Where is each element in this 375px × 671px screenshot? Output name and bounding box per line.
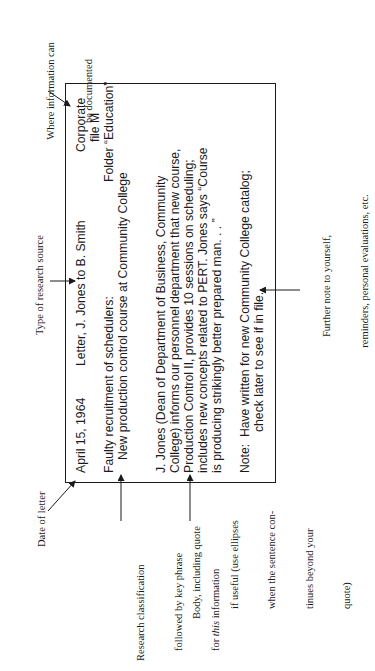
card-body-line: Production Control II, provides 10 sessi… bbox=[182, 159, 196, 473]
card-body-line: College) informs our personnel departmen… bbox=[168, 149, 182, 474]
label-type-of-source: Type of research source bbox=[34, 235, 47, 335]
card-classification: Faulty recruitment of schedulers: bbox=[102, 296, 116, 473]
card-source-type: Letter, J. Jones to B. Smith bbox=[74, 220, 88, 366]
label-where-documented: Where information can be documented bbox=[20, 31, 120, 151]
card-note-line2: check later to see if in file. bbox=[252, 292, 266, 432]
card-key-phrase: New production control course at Communi… bbox=[116, 172, 130, 460]
label-further-note: Further note to yourself, reminders, per… bbox=[296, 181, 375, 391]
card-date: April 15, 1964 bbox=[74, 398, 88, 473]
label-date-of-letter: Date of letter bbox=[36, 492, 49, 547]
card-body-line: includes new concepts related to PERT. J… bbox=[196, 147, 210, 473]
label-body: Body, including quote if useful (use ell… bbox=[166, 511, 375, 619]
card-body-line: J. Jones (Dean of Department of Business… bbox=[154, 176, 168, 473]
arrow-date-of-letter bbox=[48, 481, 75, 511]
card-body-line: is producing strikingly better prepared … bbox=[210, 218, 224, 473]
card-note-line1: Note: Have written for new Community Col… bbox=[238, 170, 252, 473]
